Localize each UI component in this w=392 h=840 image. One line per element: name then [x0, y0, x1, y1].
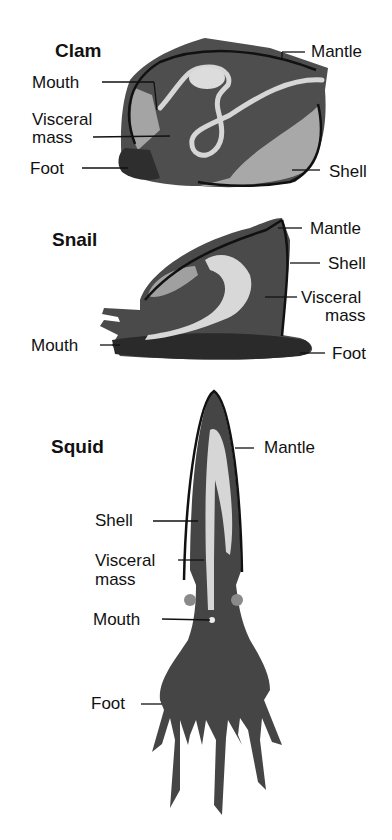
clam-visceral-label-1: Visceral: [32, 110, 92, 129]
clam-mantle-label: Mantle: [311, 42, 362, 61]
clam-visceral-label-2: mass: [32, 128, 73, 147]
snail-illustration: [100, 218, 325, 360]
clam-foot-label: Foot: [30, 159, 64, 178]
clam-mouth-label: Mouth: [32, 73, 79, 92]
squid-mantle-label: Mantle: [264, 438, 315, 457]
clam-illustration: [82, 38, 328, 187]
squid-shell-label: Shell: [95, 511, 133, 530]
snail-shell-label: Shell: [328, 254, 366, 273]
snail-mantle-label: Mantle: [310, 219, 361, 238]
snail-visceral-label-2: mass: [325, 306, 366, 325]
clam-shell-label: Shell: [329, 162, 367, 181]
squid-title: Squid: [51, 436, 104, 458]
squid-foot-label: Foot: [91, 694, 125, 713]
snail-foot-label: Foot: [332, 344, 366, 363]
clam-title: Clam: [55, 40, 101, 62]
squid-mouth-label: Mouth: [93, 610, 140, 629]
squid-illustration: [141, 391, 282, 815]
snail-visceral-label-1: Visceral: [301, 288, 361, 307]
snail-mouth-label: Mouth: [31, 336, 78, 355]
squid-visceral-label-1: Visceral: [95, 551, 155, 570]
snail-title: Snail: [52, 229, 97, 251]
squid-visceral-label-2: mass: [95, 570, 136, 589]
